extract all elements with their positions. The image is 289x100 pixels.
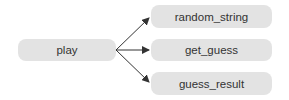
node-play: play — [18, 39, 116, 61]
node-label: get_guess — [185, 44, 238, 56]
node-label: play — [56, 44, 77, 56]
node-label: guess_result — [179, 78, 244, 90]
edge-play-to-random-string — [116, 18, 149, 50]
edge-play-to-guess-result — [116, 50, 149, 82]
node-get-guess: get_guess — [151, 39, 272, 61]
node-random-string: random_string — [151, 5, 272, 28]
node-label: random_string — [175, 11, 249, 23]
node-guess-result: guess_result — [151, 72, 272, 95]
